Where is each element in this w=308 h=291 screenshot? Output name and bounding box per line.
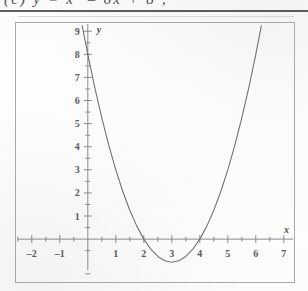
- cut-off-header-text: (c) y = x² – 6x + 8 ;: [4, 0, 169, 8]
- svg-text:–2: –2: [26, 248, 37, 259]
- svg-text:5: 5: [75, 118, 80, 129]
- graph-plot-area: –2–11234567 123456789 xy: [15, 22, 295, 283]
- svg-text:6: 6: [75, 95, 80, 106]
- svg-text:6: 6: [253, 248, 258, 259]
- y-axis-tick-label-group: 123456789: [75, 26, 80, 222]
- svg-text:3: 3: [169, 248, 174, 259]
- svg-text:5: 5: [225, 248, 230, 259]
- svg-text:x: x: [283, 224, 289, 235]
- svg-text:–1: –1: [54, 248, 65, 259]
- svg-text:4: 4: [197, 248, 202, 259]
- parabola-curve-group: [82, 26, 261, 263]
- svg-text:2: 2: [75, 187, 80, 198]
- axis-name-group: xy: [96, 24, 289, 235]
- major-tick-group: [32, 31, 284, 243]
- plot-top-guide-rule: [18, 16, 294, 17]
- svg-text:7: 7: [281, 248, 286, 259]
- svg-text:1: 1: [75, 211, 80, 222]
- svg-text:4: 4: [75, 141, 80, 152]
- svg-text:2: 2: [141, 248, 146, 259]
- svg-text:3: 3: [75, 164, 80, 175]
- axis-line-group: [17, 24, 293, 270]
- header-divider-rule: [0, 10, 308, 12]
- svg-text:9: 9: [75, 26, 80, 37]
- svg-text:y: y: [96, 24, 102, 35]
- svg-text:1: 1: [113, 248, 118, 259]
- scanned-worksheet-page: (c) y = x² – 6x + 8 ; –2–11234567 123456…: [0, 0, 308, 291]
- parabola-graph-svg: –2–11234567 123456789 xy: [15, 22, 295, 283]
- svg-text:7: 7: [75, 72, 80, 83]
- svg-text:8: 8: [75, 49, 80, 60]
- x-axis-tick-label-group: –2–11234567: [26, 248, 287, 259]
